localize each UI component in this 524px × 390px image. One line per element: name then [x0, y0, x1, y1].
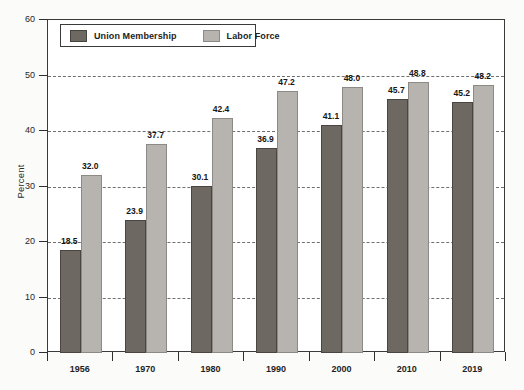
bar-value-label: 37.7 [134, 130, 178, 140]
x-axis-tick [178, 352, 179, 361]
bar [256, 148, 277, 353]
legend-swatch-icon [70, 30, 87, 42]
bar [452, 102, 473, 353]
y-axis-label: 50 [0, 70, 35, 80]
y-axis-label: 10 [0, 292, 35, 302]
bar [146, 144, 167, 353]
gridline [48, 131, 504, 132]
legend-label: Union Membership [94, 31, 177, 41]
bar-value-label: 45.7 [374, 85, 418, 95]
bar-value-label: 32.0 [68, 161, 112, 171]
x-axis-label: 1980 [181, 364, 241, 374]
bar [125, 220, 146, 353]
bar [60, 250, 81, 353]
bar-value-label: 45.2 [440, 88, 484, 98]
x-axis-label: 2019 [442, 364, 502, 374]
x-axis-tick [309, 352, 310, 361]
y-axis-tick [39, 186, 48, 187]
chart-legend: Union MembershipLabor Force [60, 24, 256, 47]
x-axis-label: 1990 [246, 364, 306, 374]
bar-value-label: 41.1 [309, 111, 353, 121]
x-axis-tick [505, 352, 506, 361]
x-axis-label: 1956 [50, 364, 110, 374]
bar-value-label: 18.5 [47, 236, 91, 246]
bar-value-label: 47.2 [265, 77, 309, 87]
bar-value-label: 48.0 [330, 73, 374, 83]
legend-label: Labor Force [227, 31, 280, 41]
y-axis-label: 60 [0, 14, 35, 24]
x-axis-tick [440, 352, 441, 361]
bar-value-label: 36.9 [244, 134, 288, 144]
y-axis-tick [39, 297, 48, 298]
bar [342, 87, 363, 353]
bar [408, 82, 429, 353]
bar-value-label: 48.2 [461, 71, 505, 81]
bar-value-label: 30.1 [178, 172, 222, 182]
x-axis-label: 2000 [311, 364, 371, 374]
bar [387, 99, 408, 353]
y-axis-label: 40 [0, 125, 35, 135]
y-axis-tick [39, 19, 48, 20]
bar [277, 91, 298, 353]
bar-value-label: 23.9 [113, 206, 157, 216]
x-axis-tick [374, 352, 375, 361]
y-axis-label: 0 [0, 347, 35, 357]
x-axis-label: 2010 [377, 364, 437, 374]
x-axis-label: 1970 [115, 364, 175, 374]
x-axis-tick [47, 352, 48, 361]
y-axis-tick [39, 75, 48, 76]
bar [191, 186, 212, 353]
legend-item-labor[interactable]: Labor Force [203, 25, 280, 46]
bar-value-label: 48.8 [395, 68, 439, 78]
y-axis-tick [39, 130, 48, 131]
y-axis-label: 30 [0, 181, 35, 191]
bar-value-label: 42.4 [199, 104, 243, 114]
x-axis-tick [243, 352, 244, 361]
bar [321, 125, 342, 353]
legend-item-union[interactable]: Union Membership [70, 25, 177, 46]
bar [212, 118, 233, 353]
bar-chart: Percent 0102030405060 195619701980199020… [0, 0, 524, 390]
x-axis-tick [112, 352, 113, 361]
y-axis-label: 20 [0, 236, 35, 246]
legend-swatch-icon [203, 30, 220, 42]
bar [473, 85, 494, 353]
bar [81, 175, 102, 353]
